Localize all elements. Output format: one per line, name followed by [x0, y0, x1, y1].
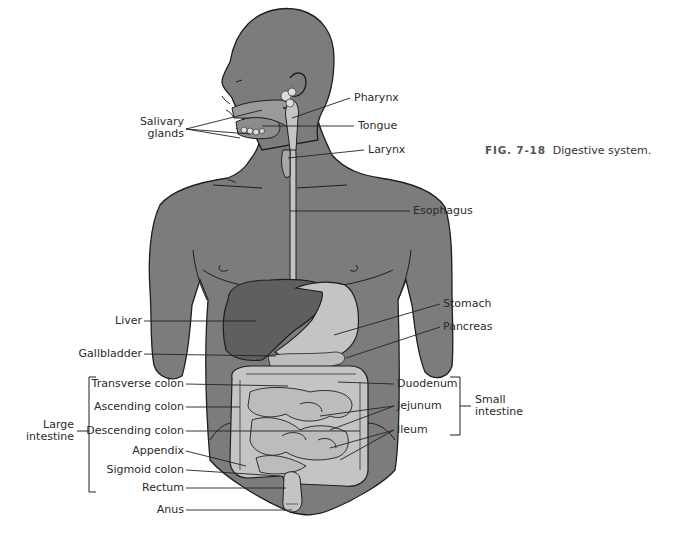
label-tongue: Tongue: [358, 120, 397, 132]
label-esophagus: Esophagus: [413, 205, 473, 217]
figure-title: Digestive system.: [553, 144, 651, 157]
label-ileum: Ileum: [397, 424, 428, 436]
label-pharynx: Pharynx: [354, 92, 399, 104]
rectum-shape: [283, 472, 302, 512]
label-anus: Anus: [80, 504, 184, 516]
small-intestine-line2: intestine: [475, 406, 523, 418]
label-gallbladder: Gallbladder: [60, 348, 142, 360]
label-jejunum: Jejunum: [397, 400, 442, 412]
label-transverse-colon: Transverse colon: [80, 378, 184, 390]
label-stomach: Stomach: [443, 298, 492, 310]
label-sigmoid-colon: Sigmoid colon: [80, 464, 184, 476]
group-label-large-intestine: Large intestine: [10, 419, 74, 443]
digestive-system-figure: Salivary glands Pharynx Tongue Larynx Es…: [0, 0, 684, 545]
label-salivary-line2: glands: [128, 128, 184, 140]
label-duodenum: Duodenum: [397, 378, 458, 390]
group-label-small-intestine: Small intestine: [475, 394, 523, 418]
label-larynx: Larynx: [368, 144, 405, 156]
figure-number: FIG. 7-18: [485, 144, 546, 156]
label-appendix: Appendix: [80, 445, 184, 457]
label-liver: Liver: [100, 315, 142, 327]
large-intestine-line2: intestine: [10, 431, 74, 443]
figure-caption: FIG. 7-18 Digestive system.: [485, 144, 651, 157]
figure-prefix: FIG.: [485, 144, 512, 156]
label-rectum: Rectum: [80, 482, 184, 494]
label-salivary-glands: Salivary glands: [128, 116, 184, 140]
label-pancreas: Pancreas: [443, 321, 492, 333]
label-ascending-colon: Ascending colon: [80, 401, 184, 413]
label-descending-colon: Descending colon: [80, 425, 184, 437]
figure-number-value: 7-18: [516, 144, 545, 156]
